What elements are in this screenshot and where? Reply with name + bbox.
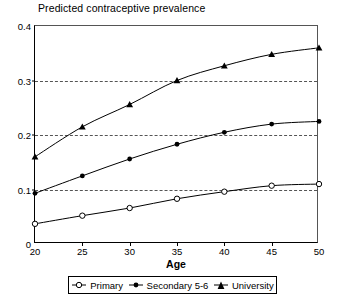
x-axis-tick-label: 50	[314, 246, 325, 257]
data-point-marker	[33, 191, 38, 196]
legend-marker-filled-circle-icon	[128, 280, 144, 290]
data-point-marker	[79, 123, 86, 129]
legend-item[interactable]: University	[213, 280, 274, 291]
chart-legend: PrimarySecondary 5-6University	[68, 276, 277, 294]
legend-item-label: Primary	[90, 280, 123, 291]
x-axis-tick-mark	[177, 242, 178, 246]
data-point-marker	[317, 119, 322, 124]
data-point-marker	[174, 196, 179, 201]
x-axis-tick-label: 30	[124, 246, 135, 257]
x-axis-tick-mark	[82, 242, 83, 246]
legend-item-label: Secondary 5-6	[147, 280, 209, 291]
y-axis-tick-label: 0.4	[18, 21, 31, 32]
data-point-marker	[316, 44, 323, 50]
plot-area: 00.10.20.30.4 20253035404550	[34, 25, 318, 243]
plot-inner: 00.10.20.30.4 20253035404550	[35, 26, 317, 242]
data-point-marker	[175, 142, 180, 147]
data-point-marker	[127, 205, 132, 210]
y-axis-tick-label: 0.1	[18, 184, 31, 195]
data-point-marker	[222, 130, 227, 135]
data-point-marker	[80, 213, 85, 218]
data-point-marker	[269, 122, 274, 127]
y-axis-tick-label: 0.2	[18, 130, 31, 141]
x-axis-tick-label: 25	[77, 246, 88, 257]
data-point-marker	[32, 153, 39, 159]
data-point-marker	[126, 101, 133, 107]
x-axis-tick-mark	[272, 242, 273, 246]
data-point-marker	[316, 181, 321, 186]
x-axis-tick-mark	[224, 242, 225, 246]
chart-container: Predicted contraceptive prevalence 00.10…	[0, 0, 343, 301]
series-line	[35, 121, 319, 193]
x-axis-tick-label: 40	[219, 246, 230, 257]
legend-marker-filled-triangle-icon	[213, 280, 229, 290]
x-axis-tick-label: 45	[266, 246, 277, 257]
data-point-marker	[269, 183, 274, 188]
data-point-marker	[32, 221, 37, 226]
x-axis-tick-mark	[130, 242, 131, 246]
legend-marker-open-circle-icon	[71, 280, 87, 290]
data-series-layer	[35, 26, 317, 242]
data-point-marker	[80, 173, 85, 178]
series-primary	[32, 181, 321, 226]
x-axis-tick-label: 35	[172, 246, 183, 257]
chart-title: Predicted contraceptive prevalence	[38, 2, 205, 14]
legend-item[interactable]: Primary	[71, 280, 123, 291]
legend-item-label: University	[232, 280, 274, 291]
data-point-marker	[127, 157, 132, 162]
data-point-marker	[174, 77, 181, 83]
x-axis-title: Age	[34, 258, 318, 270]
series-line	[35, 48, 319, 157]
data-point-marker	[222, 189, 227, 194]
series-line	[35, 184, 319, 224]
x-axis-tick-label: 20	[30, 246, 41, 257]
y-axis-tick-label: 0.3	[18, 75, 31, 86]
legend-item[interactable]: Secondary 5-6	[128, 280, 209, 291]
